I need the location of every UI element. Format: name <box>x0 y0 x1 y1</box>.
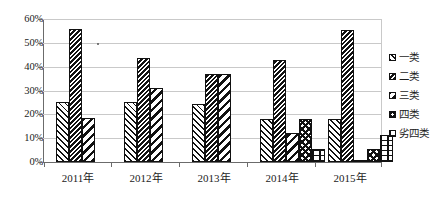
legend: 一类 二类 三类 四类 劣四类 <box>389 49 447 144</box>
bar-2011-yilei <box>56 102 69 162</box>
legend-item-silei[interactable]: 四类 <box>389 106 447 123</box>
bar-group-2012 <box>124 19 192 162</box>
x-axis-label-2012: 2012年 <box>112 172 180 184</box>
legend-swatch-icon <box>389 111 396 118</box>
legend-item-lie-silei[interactable]: 劣四类 <box>389 125 447 142</box>
bar-2012-sanlei <box>150 88 163 162</box>
legend-item-erlei[interactable]: 二类 <box>389 68 447 85</box>
bar-2015-erlei <box>341 30 354 162</box>
bar-2012-yilei <box>124 102 137 162</box>
bar-2013-yilei <box>192 104 205 162</box>
bar-2015-silei <box>367 149 380 162</box>
bar-2013-sanlei <box>218 74 231 162</box>
bar-2014-lie-silei <box>312 149 325 162</box>
bar-2014-silei <box>299 119 312 162</box>
bar-2011-sanlei <box>82 118 95 162</box>
y-axis-tick-mark <box>38 67 42 68</box>
x-axis-tick-mark <box>315 163 316 167</box>
legend-swatch-icon <box>389 73 396 80</box>
legend-swatch-icon <box>389 130 396 137</box>
legend-label: 劣四类 <box>399 128 429 139</box>
bar-group-2015 <box>328 19 396 162</box>
x-axis-label-2011: 2011年 <box>44 172 112 184</box>
legend-swatch-icon <box>389 92 396 99</box>
bar-groups <box>43 19 382 162</box>
bar-group-2011 <box>56 19 124 162</box>
bar-2015-sanlei <box>354 160 367 162</box>
bar-2014-erlei <box>273 60 286 162</box>
bar-group-2013 <box>192 19 260 162</box>
y-axis-tick-mark <box>38 162 42 163</box>
legend-label: 四类 <box>399 109 419 120</box>
plot-area <box>43 19 382 162</box>
bar-2012-erlei <box>137 58 150 162</box>
x-axis-tick-mark <box>381 163 382 167</box>
gridline-0-baseline <box>43 162 382 163</box>
legend-label: 一类 <box>399 52 419 63</box>
bar-2013-erlei <box>205 74 218 162</box>
x-axis-tick-mark <box>247 163 248 167</box>
bar-2011-erlei <box>69 29 82 162</box>
x-axis-tick-mark <box>179 163 180 167</box>
legend-label: 三类 <box>399 90 419 101</box>
x-axis-tick-mark <box>111 163 112 167</box>
bar-chart: 60% 50% 40% 30% 20% 10% 0% <box>0 0 447 200</box>
legend-item-yilei[interactable]: 一类 <box>389 49 447 66</box>
bar-2015-yilei <box>328 119 341 162</box>
y-axis-tick-mark <box>38 19 42 20</box>
bar-2014-sanlei <box>286 133 299 162</box>
x-axis-label-2014: 2014年 <box>248 172 316 184</box>
legend-swatch-icon <box>389 54 396 61</box>
y-axis-tick-mark <box>38 114 42 115</box>
x-axis-label-2013: 2013年 <box>180 172 248 184</box>
legend-item-sanlei[interactable]: 三类 <box>389 87 447 104</box>
x-axis-label-2015: 2015年 <box>316 172 384 184</box>
y-axis-tick-mark <box>38 91 42 92</box>
bar-group-2014 <box>260 19 328 162</box>
y-axis-tick-mark <box>38 138 42 139</box>
bar-2014-yilei <box>260 119 273 162</box>
y-axis-tick-mark <box>38 43 42 44</box>
legend-label: 二类 <box>399 71 419 82</box>
x-axis-tick-mark <box>44 163 45 167</box>
y-axis: 60% 50% 40% 30% 20% 10% 0% <box>0 0 43 200</box>
